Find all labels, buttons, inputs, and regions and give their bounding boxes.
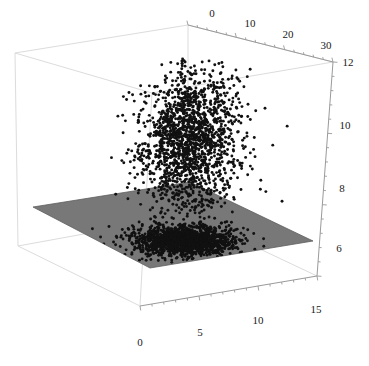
x-tick-label-2: 10 xyxy=(253,314,265,326)
y-axis-ticks xyxy=(187,21,333,62)
z-tick-label-1: 10 xyxy=(340,119,352,131)
y-axis-tick-labels: 0 10 20 30 xyxy=(209,7,332,51)
figure-3d-scatter-plot: 0 5 10 15 0 10 20 30 12 10 8 6 xyxy=(0,0,369,366)
y-tick-label-0: 0 xyxy=(209,7,215,19)
x-tick-label-0: 0 xyxy=(137,336,143,348)
z-tick-label-3: 6 xyxy=(336,242,342,254)
x-axis-ticks xyxy=(140,276,318,310)
y-tick-label-1: 10 xyxy=(245,17,257,29)
y-axis-line xyxy=(188,25,333,62)
z-axis-tick-labels: 12 10 8 6 xyxy=(336,56,353,254)
x-tick-label-3: 15 xyxy=(311,303,323,315)
x-tick-label-1: 5 xyxy=(197,326,203,338)
z-tick-label-2: 8 xyxy=(339,182,345,194)
x-axis-tick-labels: 0 5 10 15 xyxy=(137,303,322,348)
y-tick-label-3: 30 xyxy=(321,39,333,51)
y-tick-label-2: 20 xyxy=(283,28,295,40)
z-axis-ticks xyxy=(317,62,337,276)
x-axis-line xyxy=(140,276,317,306)
z-axis-line xyxy=(317,62,333,276)
z-tick-label-0: 12 xyxy=(343,56,354,68)
plot-canvas: 0 5 10 15 0 10 20 30 12 10 8 6 xyxy=(0,0,369,366)
